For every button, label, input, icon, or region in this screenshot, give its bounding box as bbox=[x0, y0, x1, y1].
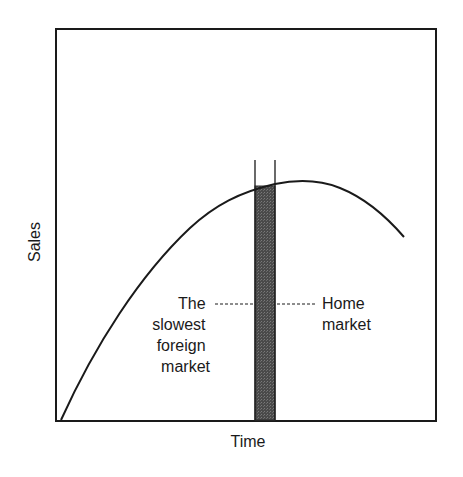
x-axis-label: Time bbox=[231, 433, 266, 450]
left-annotation: The slowest foreign market bbox=[152, 295, 210, 375]
shaded-time-band bbox=[255, 186, 275, 420]
sales-time-chart: The slowest foreign market Home market S… bbox=[0, 0, 463, 477]
y-axis-label: Sales bbox=[26, 222, 43, 262]
plot-frame bbox=[56, 29, 436, 421]
right-annotation: Home market bbox=[322, 295, 371, 333]
